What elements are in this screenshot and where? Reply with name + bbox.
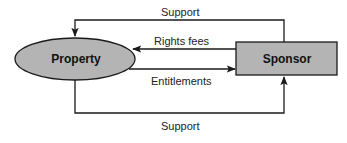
- node-property-label: Property: [51, 53, 100, 65]
- edge-label-rights-fees: Rights fees: [154, 36, 209, 47]
- node-sponsor-label: Sponsor: [263, 53, 312, 65]
- edge-label-support-bottom: Support: [161, 121, 200, 132]
- edge-label-support-top: Support: [161, 7, 200, 18]
- sponsorship-diagram: Property Sponsor Support Rights fees Ent…: [0, 0, 347, 143]
- edge-label-entitlements: Entitlements: [151, 76, 212, 87]
